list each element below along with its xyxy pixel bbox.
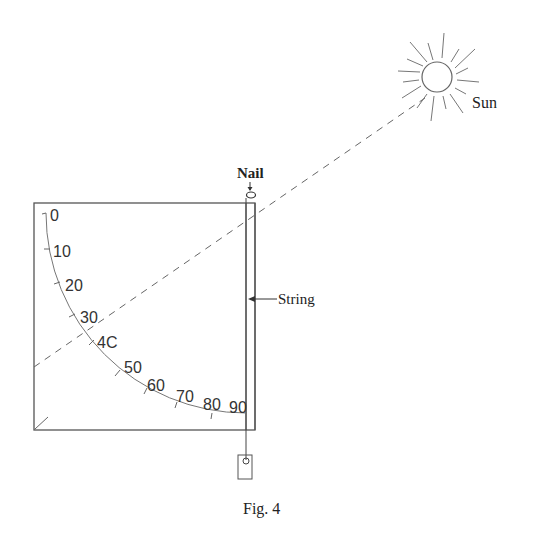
sun-ray-dashed (34, 98, 425, 367)
scale-label-0: 0 (50, 207, 59, 224)
sun-label: Sun (472, 94, 497, 111)
scale-label-90: 90 (229, 399, 247, 416)
scale-label-60: 60 (147, 377, 165, 394)
scale-label-70: 70 (176, 388, 194, 405)
nail-icon (247, 192, 256, 198)
string-arrow-head (248, 296, 255, 302)
string-label: String (278, 291, 315, 307)
corner-mark (35, 417, 48, 429)
scale-label-50: 50 (124, 359, 142, 376)
scale-label-40: 4C (97, 334, 117, 351)
nail-arrow-head (248, 187, 253, 191)
scale-label-20: 20 (65, 277, 83, 294)
arc-top-tick (42, 213, 46, 214)
quadrant-diagram: Nail String Sun (0, 0, 538, 537)
degree-arc (46, 213, 246, 413)
quadrant-board (34, 203, 255, 430)
scale-label-80: 80 (203, 396, 221, 413)
scale-label-10: 10 (53, 243, 71, 260)
sighting-strip (246, 203, 255, 430)
figure-caption: Fig. 4 (243, 500, 280, 518)
degree-labels: 0 10 20 30 4C 50 60 70 80 90 (50, 207, 247, 416)
nail-label: Nail (237, 165, 264, 181)
scale-label-30: 30 (80, 309, 98, 326)
